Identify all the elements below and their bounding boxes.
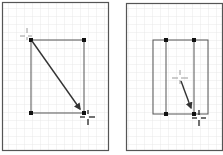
handle-top-right[interactable] — [192, 38, 196, 42]
panel-after — [127, 4, 223, 151]
canvas-grid — [3, 3, 109, 151]
handle-bottom-right[interactable] — [82, 111, 86, 115]
handle-bottom-left[interactable] — [29, 111, 33, 115]
handle-bottom-right[interactable] — [192, 112, 196, 116]
handle-top-right[interactable] — [82, 38, 86, 42]
handle-top-left[interactable] — [164, 38, 168, 42]
handle-bottom-left[interactable] — [164, 112, 168, 116]
resize-illustration — [0, 0, 223, 155]
panel-before — [3, 3, 109, 151]
